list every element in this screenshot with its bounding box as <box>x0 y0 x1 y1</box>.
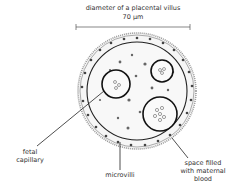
fetal-capillary-left <box>102 70 130 98</box>
title-label: diameter of a placental villus <box>70 4 196 12</box>
fetal-capillary-bottom-right <box>143 97 177 131</box>
microvilli-label: microvilli <box>100 171 140 179</box>
dimension-line <box>76 24 190 30</box>
dimension-label: 70 µm <box>70 13 196 21</box>
fetal-capillary-top-right <box>151 60 173 82</box>
fetal-capillary-label: fetal capillary <box>10 148 50 164</box>
maternal-blood-label: space filled with maternal blood <box>178 159 228 183</box>
